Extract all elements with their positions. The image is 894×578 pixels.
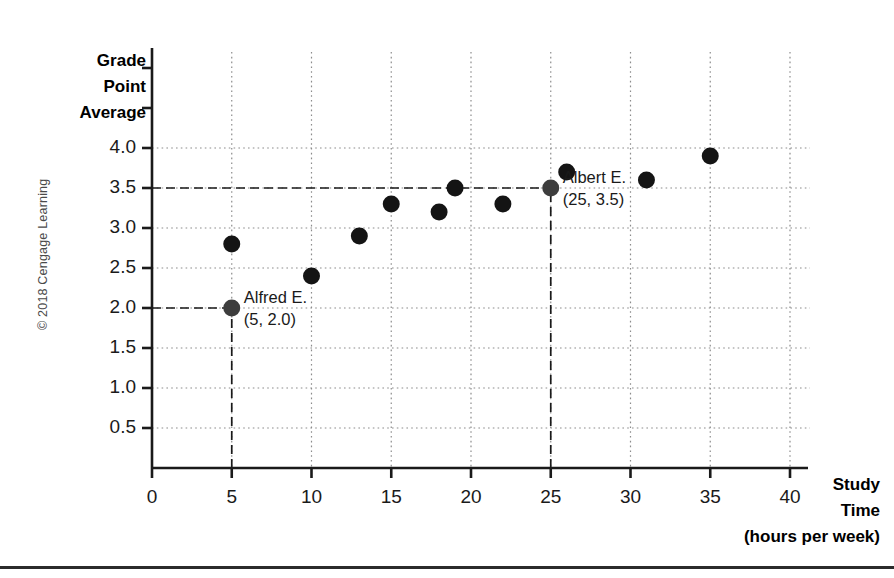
page-divider-rule bbox=[0, 566, 894, 569]
y-tick-label: 4.0 bbox=[76, 136, 136, 158]
data-point bbox=[383, 196, 400, 213]
data-point bbox=[223, 236, 240, 253]
annotation-name: Albert E. bbox=[563, 168, 626, 186]
y-axis-title-line: Grade bbox=[60, 48, 146, 74]
x-tick-label: 40 bbox=[768, 486, 812, 508]
y-tick-label: 1.0 bbox=[76, 376, 136, 398]
x-tick-label: 5 bbox=[210, 486, 254, 508]
x-tick-label: 25 bbox=[529, 486, 573, 508]
data-point bbox=[303, 268, 320, 285]
data-point bbox=[431, 204, 448, 221]
y-tick-label: 2.5 bbox=[76, 256, 136, 278]
data-point bbox=[351, 228, 368, 245]
data-point bbox=[447, 180, 464, 197]
point-annotation: Albert E.(25, 3.5) bbox=[563, 166, 626, 210]
scatter-plot-figure: © 2018 Cengage Learning GradePointAverag… bbox=[0, 0, 894, 578]
x-tick-label: 10 bbox=[290, 486, 334, 508]
x-axis-title-line: (hours per week) bbox=[590, 524, 880, 550]
x-tick-label: 15 bbox=[369, 486, 413, 508]
y-axis-title-line: Point bbox=[60, 74, 146, 100]
y-axis-title-line: Average bbox=[60, 100, 146, 126]
y-tick-label: 0.5 bbox=[76, 416, 136, 438]
annotation-coordinates: (5, 2.0) bbox=[244, 308, 307, 330]
annotation-name: Alfred E. bbox=[244, 288, 307, 306]
data-point bbox=[223, 300, 240, 317]
point-annotation: Alfred E.(5, 2.0) bbox=[244, 286, 307, 330]
x-axis-title: StudyTime(hours per week) bbox=[590, 472, 880, 550]
y-tick-label: 1.5 bbox=[76, 336, 136, 358]
annotation-coordinates: (25, 3.5) bbox=[563, 188, 626, 210]
data-point bbox=[638, 172, 655, 189]
y-tick-label: 3.5 bbox=[76, 176, 136, 198]
data-point bbox=[702, 148, 719, 165]
x-tick-label: 20 bbox=[449, 486, 493, 508]
x-tick-label: 35 bbox=[688, 486, 732, 508]
y-tick-label: 2.0 bbox=[76, 296, 136, 318]
data-point bbox=[542, 180, 559, 197]
y-axis-title: GradePointAverage bbox=[60, 48, 146, 126]
x-tick-label: 0 bbox=[130, 486, 174, 508]
x-tick-label: 30 bbox=[609, 486, 653, 508]
y-tick-label: 3.0 bbox=[76, 216, 136, 238]
data-point bbox=[494, 196, 511, 213]
